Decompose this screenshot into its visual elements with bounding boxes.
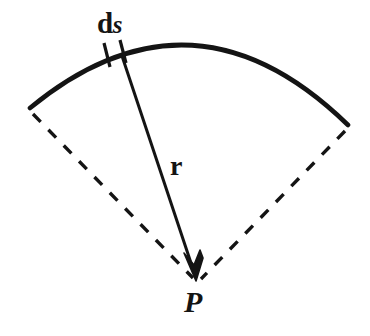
right-radius-dashed-line [201, 131, 345, 279]
point-label: P [184, 287, 202, 317]
arc-element-label-d: d [97, 7, 113, 39]
geometry-diagram: ds r P [0, 0, 370, 336]
arc-element-label-s: s [113, 11, 123, 38]
arc-path [30, 45, 348, 125]
arc-element-label: ds [97, 9, 122, 38]
radius-vector-label: r [170, 152, 182, 180]
radius-vector-line [122, 56, 194, 272]
